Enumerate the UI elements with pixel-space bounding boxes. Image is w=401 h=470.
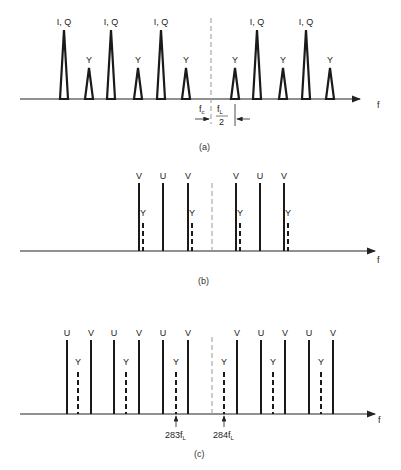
panel-c-caption: (c) (194, 449, 205, 459)
panel-a-caption: (a) (199, 142, 210, 152)
line-label: Y (270, 357, 276, 367)
line-label: V (185, 171, 191, 181)
peak-label: Y (86, 55, 92, 65)
panel-a-spectrum: f I, QYI, QYI, QYYI, QYI, QY fc fL 2 (a) (20, 17, 380, 152)
carrier-line: U (160, 171, 167, 251)
luminance-line: Y (237, 208, 243, 251)
peak-label: Y (327, 55, 333, 65)
peak-label: Y (232, 55, 238, 65)
line-label: U (258, 328, 265, 338)
peak-label: I, Q (104, 17, 119, 27)
line-label: U (111, 328, 118, 338)
peak-label: I, Q (154, 17, 169, 27)
panel-b-spectrum: f VYUVYVYUVY (b) (20, 171, 380, 286)
panel-a-spacing-numerator: fL (217, 104, 224, 115)
luminance-line: Y (221, 357, 227, 414)
carrier-line: V (185, 328, 191, 414)
line-label: Y (237, 208, 243, 218)
line-label: V (233, 171, 239, 181)
line-label: Y (189, 208, 195, 218)
spectral-peak: Y (134, 55, 142, 99)
spectral-peak: I, Q (154, 17, 169, 99)
carrier-line: U (160, 328, 167, 414)
luminance-line: Y (123, 357, 129, 414)
carrier-line: V (234, 328, 240, 414)
spectral-peak: Y (85, 55, 93, 99)
spectral-peak: I, Q (299, 17, 314, 99)
luminance-line: Y (189, 208, 195, 251)
line-label: V (330, 328, 336, 338)
peak-label: I, Q (250, 17, 265, 27)
peak-label: Y (280, 55, 286, 65)
line-label: Y (140, 208, 146, 218)
spectrum-diagram: f I, QYI, QYI, QYYI, QYI, QY fc fL 2 (a)… (0, 0, 401, 470)
line-label: Y (173, 357, 179, 367)
peak-label: Y (183, 55, 189, 65)
line-label: Y (285, 208, 291, 218)
spectral-peak: Y (231, 55, 239, 99)
carrier-line: U (257, 171, 264, 251)
spectral-peak: Y (182, 55, 190, 99)
spectral-peak: I, Q (57, 17, 72, 99)
spectral-peak: Y (326, 55, 334, 99)
carrier-line: U (111, 328, 118, 414)
panel-c-marker-284-label: 284fL (213, 430, 235, 441)
line-label: U (64, 328, 71, 338)
carrier-line: U (64, 328, 71, 414)
carrier-line: V (330, 328, 336, 414)
spectral-peak: I, Q (104, 17, 119, 99)
luminance-line: Y (173, 357, 179, 414)
panel-c-spectrum: f UYVUYVUYVYVUYVUYV 283fL 284fL (c) (20, 328, 381, 459)
carrier-line: V (282, 328, 288, 414)
line-label: V (281, 171, 287, 181)
line-label: U (306, 328, 313, 338)
panel-c-marker-283-label: 283fL (165, 430, 187, 441)
panel-c-axis-label: f (378, 415, 381, 425)
luminance-line: Y (75, 357, 81, 414)
spectral-peak: Y (279, 55, 287, 99)
line-label: V (234, 328, 240, 338)
line-label: U (160, 171, 167, 181)
carrier-line: V (136, 328, 142, 414)
line-label: Y (75, 357, 81, 367)
luminance-line: Y (270, 357, 276, 414)
line-label: U (257, 171, 264, 181)
panel-b-caption: (b) (198, 276, 209, 286)
line-label: V (185, 328, 191, 338)
panel-a-center-freq-label: fc (199, 104, 205, 115)
line-label: V (88, 328, 94, 338)
line-label: Y (123, 357, 129, 367)
line-label: Y (318, 357, 324, 367)
line-label: V (282, 328, 288, 338)
luminance-line: Y (140, 208, 146, 251)
luminance-line: Y (318, 357, 324, 414)
peak-label: I, Q (299, 17, 314, 27)
carrier-line: U (258, 328, 265, 414)
line-label: V (136, 328, 142, 338)
carrier-line: V (88, 328, 94, 414)
line-label: Y (221, 357, 227, 367)
panel-a-spacing-denominator: 2 (219, 117, 224, 127)
peak-label: I, Q (57, 17, 72, 27)
line-label: U (160, 328, 167, 338)
line-label: V (136, 171, 142, 181)
panel-b-axis-label: f (377, 255, 380, 265)
luminance-line: Y (285, 208, 291, 251)
spectral-peak: I, Q (250, 17, 265, 99)
peak-label: Y (135, 55, 141, 65)
carrier-line: U (306, 328, 313, 414)
panel-a-axis-label: f (377, 100, 380, 110)
